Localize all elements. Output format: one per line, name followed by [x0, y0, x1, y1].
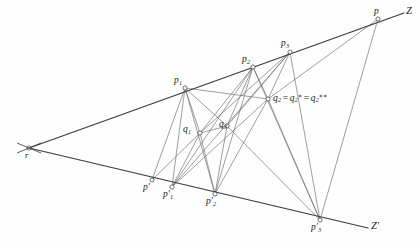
vertex-marker-q2	[266, 97, 270, 101]
vertex-marker-q1	[198, 131, 202, 135]
connector-p3-p1prime	[172, 52, 290, 187]
connector-q2-p2prime	[215, 99, 268, 194]
label-p3: p3	[281, 39, 289, 49]
connector-p3-q2	[268, 52, 290, 99]
figure-canvas: Z Z′ r p p1 p2 p3 p′ p′1 p′2 p′3 q1 q3 q…	[0, 0, 419, 247]
label-p-prime: p′	[143, 183, 150, 193]
configuration-diagram	[0, 0, 419, 247]
label-r: r	[25, 151, 28, 160]
label-p1: p1	[174, 76, 182, 86]
label-Z-prime: Z′	[371, 221, 379, 232]
vertex-marker-p	[376, 17, 380, 21]
vertex-marker-p3prime	[318, 218, 322, 222]
label-q2-equality: q2=q2∗=q2∗∗	[273, 93, 327, 104]
label-q3: q3	[219, 120, 227, 130]
label-Z: Z	[406, 6, 412, 17]
label-p3-prime: p′3	[311, 223, 321, 233]
label-p2-prime: p′2	[206, 197, 216, 207]
connector-p-q2	[268, 19, 378, 99]
line-Zprime	[29, 148, 368, 228]
connector-layer	[152, 19, 378, 220]
label-p2: p2	[242, 55, 250, 65]
vertex-marker-p3	[288, 50, 292, 54]
label-p1-prime: p′1	[163, 190, 173, 200]
marker-layer	[17, 17, 380, 222]
line-Z	[29, 13, 404, 148]
connector-q1-p2prime	[200, 133, 215, 194]
label-q1: q1	[183, 125, 191, 135]
connector-p-p3prime	[320, 19, 378, 220]
connector-p1-p1prime	[172, 88, 185, 187]
vertex-marker-p1prime	[170, 185, 174, 189]
connector-p1-p2prime	[185, 88, 215, 194]
vertex-marker-r	[17, 143, 41, 153]
connector-q2-p3prime	[268, 99, 320, 220]
connector-p1-q2	[185, 88, 268, 99]
vertex-marker-p2	[251, 65, 255, 69]
vertex-marker-p1	[183, 86, 187, 90]
vertex-marker-p2prime	[213, 192, 217, 196]
connector-q2-p1prime	[172, 99, 268, 187]
vertex-marker-pprime	[150, 178, 154, 182]
label-p: p	[374, 7, 379, 17]
connector-p3-p3prime	[290, 52, 320, 220]
